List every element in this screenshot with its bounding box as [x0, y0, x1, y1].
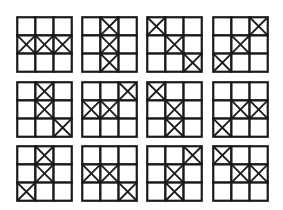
- grid-cell: [82, 82, 100, 100]
- grid-cell: [184, 183, 202, 201]
- grid-cell: [17, 82, 35, 100]
- grid-cell: [119, 164, 137, 182]
- grid-cell: [213, 164, 231, 182]
- grid-cell: [231, 146, 249, 164]
- grid-cell: [147, 100, 165, 118]
- grid-cell: [100, 119, 118, 137]
- grid-board-7: [146, 81, 203, 138]
- grid-cell: [35, 54, 53, 72]
- grid-cell: [119, 54, 137, 72]
- grid-board-8: [212, 81, 269, 138]
- grid-board-svg: [212, 16, 269, 73]
- grid-board-svg: [16, 145, 73, 202]
- grid-board-svg: [146, 81, 203, 138]
- grid-cell: [250, 183, 268, 201]
- grid-cell: [54, 100, 72, 118]
- grid-cell: [213, 100, 231, 118]
- grid-cell: [119, 35, 137, 53]
- grid-cell: [250, 82, 268, 100]
- grid-cell: [184, 164, 202, 182]
- grid-cell: [213, 82, 231, 100]
- grid-board-svg: [81, 145, 138, 202]
- grid-cell: [54, 82, 72, 100]
- grid-cell: [17, 17, 35, 35]
- grid-cell: [35, 17, 53, 35]
- grid-cell: [184, 82, 202, 100]
- grid-cell: [250, 54, 268, 72]
- grid-cell: [35, 183, 53, 201]
- grid-board-11: [146, 145, 203, 202]
- grid-cell: [100, 82, 118, 100]
- grid-cell: [35, 119, 53, 137]
- grid-cell: [82, 54, 100, 72]
- grid-cell: [119, 100, 137, 118]
- grid-cell: [184, 119, 202, 137]
- grid-cell: [100, 146, 118, 164]
- grid-cell: [17, 54, 35, 72]
- grid-board-5: [16, 81, 73, 138]
- grid-cell: [165, 82, 183, 100]
- grid-cell: [17, 146, 35, 164]
- grid-cell: [231, 54, 249, 72]
- grid-cell: [250, 119, 268, 137]
- grid-cell: [231, 183, 249, 201]
- grid-cell: [54, 146, 72, 164]
- grid-cell: [82, 119, 100, 137]
- grid-cell: [119, 17, 137, 35]
- grid-board-1: [16, 16, 73, 73]
- grid-cell: [17, 119, 35, 137]
- grid-board-10: [81, 145, 138, 202]
- grid-cell: [250, 146, 268, 164]
- grid-cell: [165, 54, 183, 72]
- grid-cell: [165, 146, 183, 164]
- grid-board-svg: [146, 145, 203, 202]
- grid-cell: [213, 17, 231, 35]
- grid-board-9: [16, 145, 73, 202]
- grid-board-svg: [212, 145, 269, 202]
- grid-cell: [147, 164, 165, 182]
- grid-cell: [82, 35, 100, 53]
- grid-cell: [231, 17, 249, 35]
- grid-cell: [147, 146, 165, 164]
- grid-cell: [54, 54, 72, 72]
- grid-cell: [82, 146, 100, 164]
- grid-cell: [119, 146, 137, 164]
- grid-board-4: [212, 16, 269, 73]
- grid-cell: [17, 164, 35, 182]
- grid-cell: [165, 17, 183, 35]
- grid-cell: [82, 17, 100, 35]
- grid-cell: [184, 17, 202, 35]
- grid-board-svg: [16, 81, 73, 138]
- grid-board-svg: [146, 16, 203, 73]
- grid-cell: [54, 183, 72, 201]
- grid-cell: [231, 82, 249, 100]
- grid-cell: [250, 35, 268, 53]
- grid-cell: [147, 54, 165, 72]
- grid-board-3: [146, 16, 203, 73]
- grid-board-12: [212, 145, 269, 202]
- grid-cell: [54, 164, 72, 182]
- grid-board-svg: [16, 16, 73, 73]
- grid-cell: [54, 17, 72, 35]
- grid-board-svg: [81, 81, 138, 138]
- grid-cell: [231, 119, 249, 137]
- grid-cell: [17, 100, 35, 118]
- grid-cell: [184, 35, 202, 53]
- grid-cell: [147, 119, 165, 137]
- grid-board-svg: [212, 81, 269, 138]
- grid-board-6: [81, 81, 138, 138]
- grid-cell: [147, 35, 165, 53]
- grid-cell: [213, 183, 231, 201]
- grid-cell: [82, 183, 100, 201]
- grid-board-svg: [81, 16, 138, 73]
- grid-cell: [184, 100, 202, 118]
- grid-cell: [119, 119, 137, 137]
- grid-board-2: [81, 16, 138, 73]
- grid-cell: [213, 35, 231, 53]
- grid-cell: [147, 183, 165, 201]
- grid-cell: [100, 183, 118, 201]
